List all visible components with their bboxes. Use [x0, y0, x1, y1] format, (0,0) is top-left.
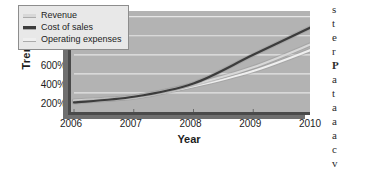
text-fragment: e: [332, 32, 337, 43]
legend-item: Revenue: [23, 10, 122, 21]
text-fragment: a: [332, 116, 337, 127]
legend-item: Cost of sales: [23, 22, 122, 33]
x-axis-title: Year: [68, 133, 310, 145]
x-tick-label: 2008: [179, 118, 201, 129]
chart-legend: RevenueCost of salesOperating expenses: [18, 5, 129, 50]
legend-swatch-icon: [23, 14, 36, 17]
text-fragment: r: [332, 46, 336, 57]
series-line-shadow: [74, 43, 310, 100]
x-axis-tick-labels: 20062007200820092010: [0, 118, 328, 134]
text-fragment: a: [332, 102, 337, 113]
text-fragment: v: [332, 158, 338, 169]
x-tick-label: 2010: [299, 118, 321, 129]
text-fragment: t: [332, 88, 335, 99]
text-fragment: s: [332, 4, 336, 15]
series-line: [74, 43, 310, 100]
text-fragment: t: [332, 18, 335, 29]
legend-swatch-icon: [23, 38, 36, 41]
text-fragment: a: [332, 74, 337, 85]
page-text-column-fragment: sterPataaacv: [330, 0, 373, 174]
text-fragment: c: [332, 144, 337, 155]
text-fragment: P: [332, 60, 339, 71]
legend-item: Operating expenses: [23, 34, 122, 45]
trend-line-chart: Trend 1000%800%600%400%200% RevenueCost …: [0, 0, 328, 174]
text-fragment: a: [332, 130, 337, 141]
legend-swatch-icon: [23, 26, 36, 29]
x-tick-label: 2009: [239, 118, 261, 129]
x-tick-label: 2007: [120, 118, 142, 129]
legend-label: Operating expenses: [41, 34, 122, 45]
legend-label: Cost of sales: [41, 22, 93, 33]
x-tick-label: 2006: [60, 118, 82, 129]
legend-label: Revenue: [41, 10, 77, 21]
